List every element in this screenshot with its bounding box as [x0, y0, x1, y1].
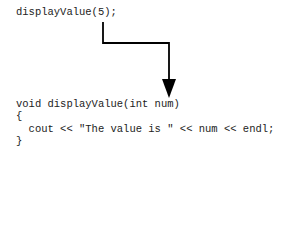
- open-brace: {: [16, 110, 22, 122]
- close-brace: }: [16, 135, 22, 147]
- function-header: void displayValue(int num): [16, 98, 180, 110]
- function-body-line: cout << "The value is " << num << endl;: [16, 123, 274, 135]
